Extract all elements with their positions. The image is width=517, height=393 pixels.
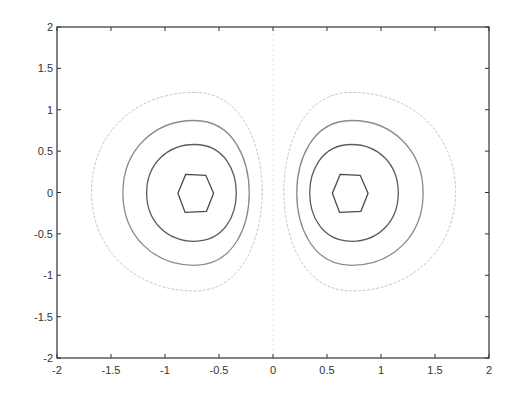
- y-tick-label: 0.5: [38, 145, 53, 157]
- y-tick-label: 1: [47, 104, 53, 116]
- contour-chart: -2-1.5-1-0.500.511.52 21.510.50-0.5-1-1.…: [0, 0, 517, 393]
- y-tick-label: -1: [43, 269, 53, 281]
- x-tick-label: -1: [160, 364, 170, 376]
- figure-background: [0, 0, 517, 393]
- y-tick-label: -2: [43, 352, 53, 364]
- x-tick-label: 0: [270, 364, 276, 376]
- x-tick-label: 2: [486, 364, 492, 376]
- y-tick-label: 1.5: [38, 62, 53, 74]
- x-tick-label: -0.5: [210, 364, 229, 376]
- x-tick-label: 1: [378, 364, 384, 376]
- y-tick-label: 0: [47, 187, 53, 199]
- x-tick-label: -2: [52, 364, 62, 376]
- y-tick-label: -0.5: [34, 228, 53, 240]
- x-tick-label: -1.5: [102, 364, 121, 376]
- y-tick-label: -1.5: [34, 311, 53, 323]
- x-tick-label: 1.5: [427, 364, 442, 376]
- y-tick-label: 2: [47, 21, 53, 33]
- x-tick-label: 0.5: [319, 364, 334, 376]
